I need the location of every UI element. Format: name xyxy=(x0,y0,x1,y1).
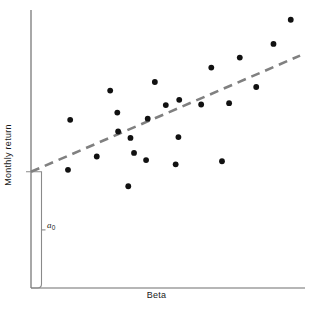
scatter-point xyxy=(145,116,151,122)
scatter-point xyxy=(143,157,149,163)
scatter-point xyxy=(163,102,169,108)
scatter-point xyxy=(176,134,182,140)
intercept-label: a0 xyxy=(47,220,55,230)
axes-group xyxy=(31,10,305,288)
intercept-subscript: 0 xyxy=(52,224,56,231)
scatter-point xyxy=(128,135,134,141)
scatter-point xyxy=(208,65,214,71)
scatter-point xyxy=(173,161,179,167)
y-axis-label: Monthly return xyxy=(0,0,16,309)
scatter-points xyxy=(65,17,294,189)
scatter-point xyxy=(288,17,294,23)
scatter-point xyxy=(67,117,73,123)
scatter-point xyxy=(125,183,131,189)
scatter-point xyxy=(226,100,232,106)
scatter-point xyxy=(65,167,71,173)
scatter-point xyxy=(237,55,243,61)
y-axis-label-text: Monthly return xyxy=(3,124,13,186)
scatter-point xyxy=(152,79,158,85)
scatter-point xyxy=(114,110,120,116)
scatter-point xyxy=(271,41,277,47)
scatter-point xyxy=(198,102,204,108)
x-axis-label: Beta xyxy=(0,290,313,300)
x-axis-label-text: Beta xyxy=(147,290,167,300)
fitted-regression-line xyxy=(31,56,300,172)
intercept-bracket xyxy=(26,172,46,288)
plot-canvas xyxy=(0,0,313,309)
scatter-point xyxy=(131,150,137,156)
scatter-point xyxy=(253,84,259,90)
scatter-point xyxy=(94,154,100,160)
scatter-plot-figure: Monthly return Beta a0 xyxy=(0,0,313,309)
scatter-point xyxy=(176,97,182,103)
scatter-point xyxy=(107,88,113,94)
intercept-symbol: a xyxy=(47,220,52,230)
scatter-point xyxy=(115,129,121,135)
scatter-point xyxy=(219,158,225,164)
